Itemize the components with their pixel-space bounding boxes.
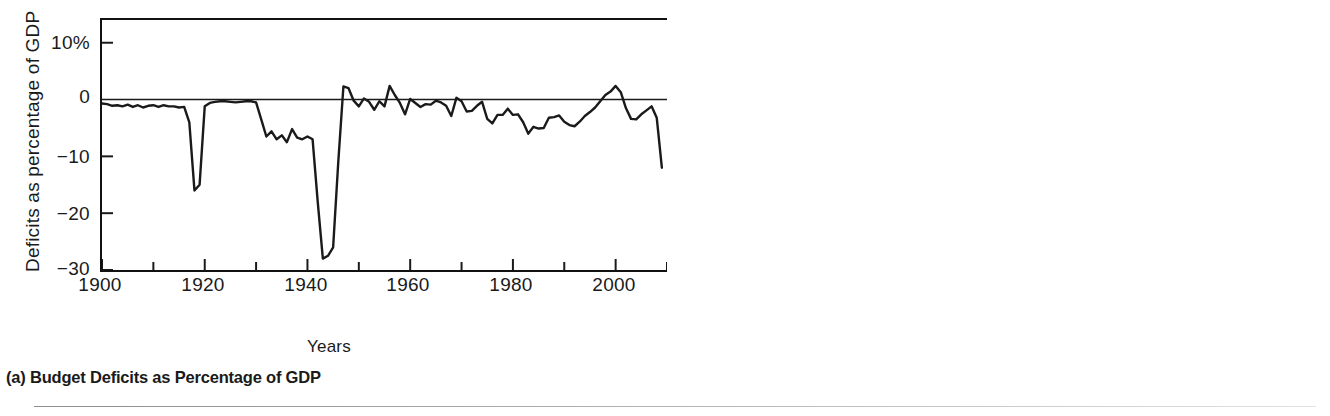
panel-budget-deficits: Deficits as percentage of GDP 10% 0 −10 … [0,0,665,416]
panel-a-deficit-line [102,86,662,259]
panel-a-ytick-2: −10 [12,146,90,168]
panel-a-xtick-1: 1920 [155,274,251,296]
panel-a-plot-area [100,18,667,272]
panel-a-caption: (a) Budget Deficits as Percentage of GDP [6,368,321,387]
panel-a-xtick-5: 2000 [566,274,662,296]
panel-a-y-tick-marks [102,43,113,270]
panel-a-xtick-4: 1980 [463,274,559,296]
panel-a-ytick-1: 0 [12,86,90,108]
figure-container: Deficits as percentage of GDP 10% 0 −10 … [0,0,1330,416]
panel-a-ytick-0: 10% [12,32,90,54]
panel-federal-debt: Debt as percentage of GDP 100% 75 50 25 … [665,0,1330,416]
panel-a-xtick-0: 1900 [52,274,148,296]
panel-a-svg [102,20,667,270]
panel-a-xtick-2: 1940 [258,274,354,296]
figure-bottom-divider [34,406,1316,407]
panel-a-ytick-3: −20 [12,203,90,225]
panel-a-x-axis-title: Years [307,337,351,357]
panel-a-xtick-3: 1960 [360,274,456,296]
panel-a-x-tick-marks [102,259,667,270]
